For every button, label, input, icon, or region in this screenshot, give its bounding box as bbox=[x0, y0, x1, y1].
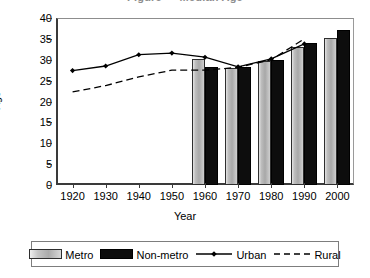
y-tick-mark bbox=[47, 122, 52, 123]
y-tick-mark bbox=[47, 102, 52, 103]
y-tick-mark bbox=[47, 60, 52, 61]
y-axis-tick-labels: 0510152025303540 bbox=[8, 0, 52, 278]
chart-legend: MetroNon-metroUrbanRural bbox=[31, 241, 339, 267]
y-tick-mark bbox=[47, 81, 52, 82]
x-tick-mark bbox=[304, 183, 305, 188]
y-tick-mark bbox=[47, 185, 52, 186]
x-tick-mark bbox=[337, 183, 338, 188]
y-tick-mark bbox=[47, 39, 52, 40]
marker-urban-1950 bbox=[169, 50, 174, 55]
legend-label: Metro bbox=[65, 248, 93, 261]
x-tick-mark bbox=[106, 183, 107, 188]
legend-item-rural[interactable]: Rural bbox=[273, 248, 340, 261]
x-tick-mark bbox=[139, 183, 140, 188]
metro-bar-icon bbox=[29, 249, 62, 259]
legend-item-non-metro[interactable]: Non-metro bbox=[100, 248, 188, 261]
marker-urban-1930 bbox=[103, 63, 108, 68]
x-tick-mark bbox=[205, 183, 206, 188]
marker-urban-1920 bbox=[70, 68, 75, 73]
legend-item-urban[interactable]: Urban bbox=[195, 248, 266, 261]
urban-line-icon bbox=[195, 249, 233, 259]
legend-item-metro[interactable]: Metro bbox=[29, 248, 93, 261]
chart-figure: Figure — Median Age Age 0510152025303540… bbox=[0, 0, 370, 278]
y-tick-mark bbox=[47, 143, 52, 144]
nonmetro-bar-icon bbox=[100, 249, 133, 259]
diamond-icon bbox=[212, 251, 218, 257]
x-tick-mark bbox=[172, 183, 173, 188]
x-tick-mark bbox=[271, 183, 272, 188]
rural-line-icon bbox=[273, 249, 311, 259]
y-tick-mark bbox=[47, 164, 52, 165]
marker-urban-1940 bbox=[136, 52, 141, 57]
legend-label: Urban bbox=[236, 248, 266, 261]
y-tick-mark bbox=[47, 18, 52, 19]
chart-title-clipped: Figure — Median Age bbox=[0, 0, 370, 3]
legend-label: Rural bbox=[314, 248, 340, 261]
marker-urban-1960 bbox=[202, 55, 207, 60]
marker-urban-1990 bbox=[302, 41, 307, 46]
x-tick-mark bbox=[73, 183, 74, 188]
x-tick-label: 2000 bbox=[315, 190, 359, 202]
legend-label: Non-metro bbox=[136, 248, 188, 261]
x-axis-title: Year bbox=[0, 210, 370, 222]
x-tick-mark bbox=[238, 183, 239, 188]
plot-area bbox=[56, 18, 354, 185]
line-series-layer bbox=[56, 18, 354, 185]
